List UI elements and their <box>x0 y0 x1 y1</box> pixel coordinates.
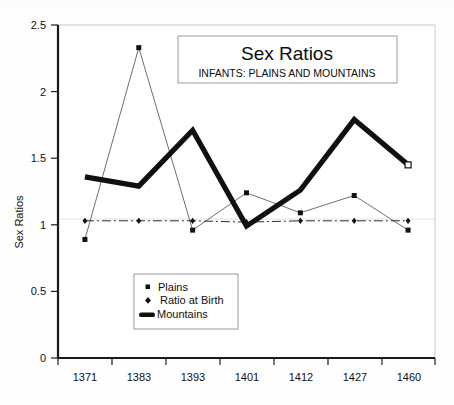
legend-marker-thick-line-icon <box>139 313 155 318</box>
data-point-marker <box>82 237 87 242</box>
y-tick-label-1: 1 <box>40 219 46 231</box>
data-point-marker <box>244 190 249 195</box>
mountains-markers <box>405 162 411 168</box>
title-box: Sex Ratios INFANTS: PLAINS AND MOUNTAINS <box>178 36 397 83</box>
y-tick-label-0: 0 <box>40 352 46 364</box>
x-tick-label-1460: 1460 <box>397 371 421 383</box>
chart-title: Sex Ratios <box>241 43 333 64</box>
data-point-marker <box>352 193 357 198</box>
x-tick-label-1371: 1371 <box>73 371 97 383</box>
data-point-marker <box>298 210 303 215</box>
sex-ratios-line-chart: 2.5 2 1.5 1 0.5 0 Sex Ratios 1371 1383 1… <box>0 0 454 405</box>
data-point-marker <box>405 162 411 168</box>
x-tick-label-1401: 1401 <box>235 371 259 383</box>
chart-subtitle: INFANTS: PLAINS AND MOUNTAINS <box>198 67 375 79</box>
chart-page: 2.5 2 1.5 1 0.5 0 Sex Ratios 1371 1383 1… <box>0 0 454 405</box>
y-tick-label-0-5: 0.5 <box>31 285 46 297</box>
legend-marker-square-icon <box>146 285 151 290</box>
y-tick-label-1-5: 1.5 <box>31 152 46 164</box>
y-axis-title: Sex Ratios <box>13 195 25 249</box>
y-tick-label-2-5: 2.5 <box>31 19 46 31</box>
x-tick-label-1383: 1383 <box>127 371 151 383</box>
y-tick-label-2: 2 <box>40 86 46 98</box>
legend: Plains Ratio at Birth Mountains <box>134 274 238 329</box>
x-tick-label-1412: 1412 <box>289 371 313 383</box>
x-tick-label-1427: 1427 <box>343 371 367 383</box>
data-point-marker <box>406 228 411 233</box>
data-point-marker <box>136 45 141 50</box>
legend-label-plains: Plains <box>158 281 188 293</box>
legend-label-ratio-at-birth: Ratio at Birth <box>160 294 224 306</box>
x-tick-label-1393: 1393 <box>181 371 205 383</box>
data-point-marker <box>190 228 195 233</box>
legend-label-mountains: Mountains <box>157 308 208 320</box>
